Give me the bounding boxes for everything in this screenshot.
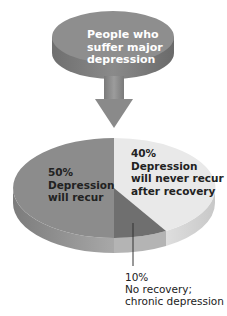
slice-never-recur-label: 40% Depression will never recur after re…: [131, 147, 224, 197]
slice-text-line: chronic depression: [125, 295, 224, 307]
slice-chronic-label: 10% No recovery; chronic depression: [125, 271, 224, 307]
slice-text-line: will never recur: [131, 172, 224, 185]
slice-percent: 40%: [131, 147, 224, 160]
slice-percent: 50%: [48, 166, 114, 179]
slice-text-line: Depression: [48, 179, 114, 192]
top-node-label: People who suffer major depression: [87, 29, 163, 67]
slice-recur-label: 50% Depression will recur: [48, 166, 114, 204]
slice-text-line: No recovery;: [125, 283, 224, 295]
top-node-line: People who: [87, 29, 163, 42]
top-node-line: depression: [87, 54, 163, 67]
slice-text-line: will recur: [48, 191, 114, 204]
slice-text-line: after recovery: [131, 185, 224, 198]
down-arrow-icon: [95, 76, 133, 128]
slice-percent: 10%: [125, 271, 224, 283]
slice-text-line: Depression: [131, 160, 224, 173]
